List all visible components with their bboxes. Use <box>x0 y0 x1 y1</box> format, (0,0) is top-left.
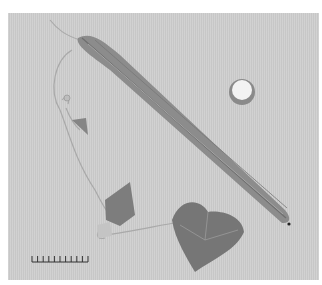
scale-bar <box>32 256 88 262</box>
small-leaf <box>72 118 88 135</box>
gourd-slice <box>229 79 255 105</box>
specimen-illustration <box>0 0 322 285</box>
leaf-pale <box>97 222 112 238</box>
leaf-left <box>105 182 135 226</box>
flower-bud <box>64 95 70 101</box>
